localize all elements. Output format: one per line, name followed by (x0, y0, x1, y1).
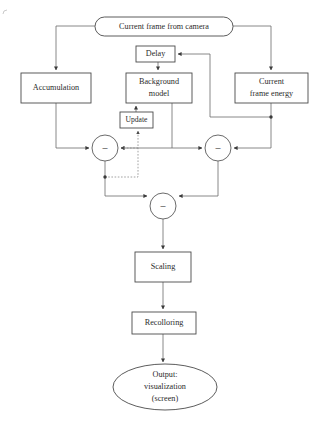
node-current-frame-energy[interactable]: Current frame energy (235, 73, 308, 103)
edge-accumulation-to-subtract-left (56, 103, 89, 148)
node-recolloring-label: Recolloring (145, 318, 184, 327)
node-delay-label: Delay (146, 49, 166, 58)
flowchart-diagram: Current frame from camera Delay Accumula… (0, 0, 318, 426)
node-update[interactable]: Update (120, 112, 153, 128)
operator-subtract-right-symbol: – (215, 142, 222, 153)
flowchart-canvas: Current frame from camera Delay Accumula… (0, 0, 318, 426)
node-current-frame-energy-label-line1: Current (259, 77, 285, 86)
node-accumulation-label: Accumulation (33, 83, 79, 92)
edge-subtract-left-stem (105, 161, 147, 196)
node-scaling[interactable]: Scaling (135, 252, 191, 282)
edge-source-to-accumulation (56, 26, 95, 70)
node-output-label-line2: visualization (144, 382, 186, 391)
operator-subtract-left-symbol: – (102, 142, 109, 153)
node-output-label-line3: (screen) (152, 394, 179, 403)
node-source[interactable]: Current frame from camera (95, 17, 233, 36)
junction-dot-subtract-left-stem (103, 175, 106, 178)
node-scaling-label: Scaling (151, 262, 176, 271)
page-corner-mark (3, 10, 7, 14)
operator-subtract-left[interactable]: – (92, 135, 118, 161)
node-update-label: Update (126, 115, 149, 124)
edge-source-to-current-frame-energy (233, 26, 271, 70)
junction-dot-current-frame-energy (269, 115, 272, 118)
edge-subtract-right-to-subtract-bottom (179, 161, 218, 196)
node-current-frame-energy-label-line2: frame energy (250, 89, 294, 98)
node-background-model[interactable]: Background model (126, 73, 192, 103)
operator-subtract-right[interactable]: – (205, 135, 231, 161)
node-layer: Current frame from camera Delay Accumula… (21, 17, 308, 410)
edge-current-frame-energy-to-subtract-right (234, 117, 271, 148)
operator-subtract-bottom[interactable]: – (150, 193, 176, 219)
operator-subtract-bottom-symbol: – (160, 200, 167, 211)
node-source-label: Current frame from camera (119, 22, 209, 31)
node-output-label-line1: Output: (152, 370, 177, 379)
node-output[interactable]: Output: visualization (screen) (113, 364, 217, 410)
node-accumulation[interactable]: Accumulation (21, 73, 91, 103)
node-recolloring[interactable]: Recolloring (132, 312, 196, 334)
node-background-model-label-line2: model (149, 89, 170, 98)
node-delay[interactable]: Delay (136, 46, 175, 62)
node-background-model-label-line1: Background (139, 77, 179, 86)
